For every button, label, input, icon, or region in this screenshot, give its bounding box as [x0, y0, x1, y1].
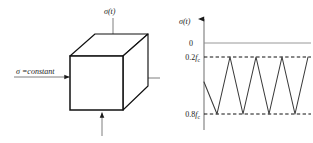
- y-axis-title: σ(t): [179, 17, 191, 26]
- right-chart-panel: σ(t) 0 0.2fc 0.8fc: [155, 0, 313, 143]
- cube-diagram-svg: σ(t) σ =constant: [0, 0, 160, 143]
- figure-container: σ(t) σ =constant: [0, 0, 313, 143]
- stress-waveform-line: [204, 57, 308, 114]
- ytick-label-upper: 0.2fc: [185, 53, 200, 63]
- top-load-label: σ(t): [104, 7, 116, 16]
- left-load-label: σ =constant: [16, 67, 55, 76]
- waveform-chart-svg: σ(t) 0 0.2fc 0.8fc: [155, 0, 313, 143]
- left-diagram-panel: σ(t) σ =constant: [0, 0, 160, 143]
- ytick-label-lower: 0.8fc: [185, 110, 200, 120]
- ytick-label-zero: 0: [189, 39, 193, 48]
- cube-front-face: [70, 56, 123, 110]
